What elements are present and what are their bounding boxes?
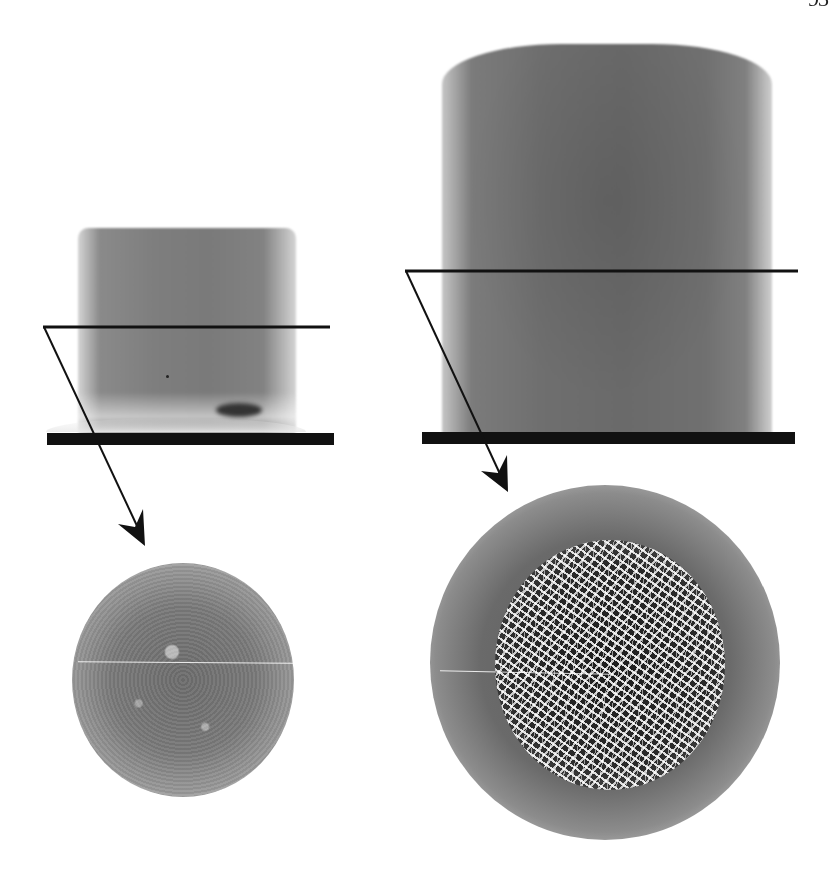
left-arrow-shaft: [44, 327, 138, 528]
left-slice-indicator: [43, 327, 330, 546]
annotation-overlay: [0, 0, 838, 880]
right-slice-indicator: [405, 271, 798, 492]
right-arrow-shaft: [406, 271, 500, 474]
